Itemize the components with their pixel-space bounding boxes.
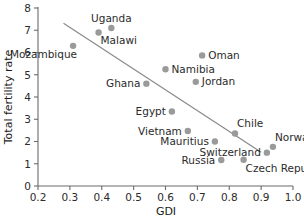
x-tick-label: 1.0 <box>285 191 302 203</box>
data-point <box>169 108 175 114</box>
point-label: Ghana <box>106 77 140 89</box>
y-tick-label: 0 <box>24 180 31 192</box>
point-label: Czech Republic <box>246 162 304 174</box>
data-point <box>193 79 199 85</box>
point-label: Mozambique <box>10 48 77 60</box>
point-label: Uganda <box>91 12 132 24</box>
data-point-labels-group: MozambiqueMalawiUgandaGhanaNamibiaEgyptV… <box>10 12 304 174</box>
x-tick-label: 0.5 <box>125 191 142 203</box>
x-tick-label: 0.2 <box>30 191 47 203</box>
x-tick-label: 0.4 <box>93 191 110 203</box>
data-point <box>162 66 168 72</box>
y-tick-label: 2 <box>24 135 31 147</box>
y-tick-label: 7 <box>24 24 31 36</box>
x-tick-label: 0.6 <box>157 191 174 203</box>
x-tick-label: 0.3 <box>62 191 79 203</box>
data-point <box>270 144 276 150</box>
y-tick-label: 5 <box>24 69 31 81</box>
plot-area: 012345678 0.20.30.40.50.60.70.80.91.0 Mo… <box>0 0 304 220</box>
data-point <box>232 130 238 136</box>
x-axis-ticks: 0.20.30.40.50.60.70.80.91.0 <box>30 186 302 203</box>
data-point <box>199 52 205 58</box>
y-tick-label: 8 <box>24 2 31 14</box>
y-axis-ticks: 012345678 <box>24 2 38 192</box>
y-tick-label: 4 <box>24 91 31 103</box>
x-axis-title: GDI <box>156 205 176 218</box>
x-tick-label: 0.7 <box>189 191 206 203</box>
point-label: Switzerland <box>200 146 261 158</box>
data-point <box>143 80 149 86</box>
data-point <box>108 25 114 31</box>
scatter-chart: 012345678 0.20.30.40.50.60.70.80.91.0 Mo… <box>0 0 304 220</box>
data-point <box>212 138 218 144</box>
y-axis-title: Total fertility rate <box>2 50 15 146</box>
point-label: Norway <box>275 131 304 143</box>
point-label: Oman <box>208 49 240 61</box>
point-label: Malawi <box>101 34 137 46</box>
point-label: Jordan <box>201 75 235 87</box>
y-tick-label: 3 <box>24 113 31 125</box>
point-label: Chile <box>237 117 263 129</box>
x-tick-label: 0.8 <box>221 191 238 203</box>
data-point <box>185 128 191 134</box>
data-point <box>264 149 270 155</box>
point-label: Namibia <box>172 63 215 75</box>
x-tick-label: 0.9 <box>253 191 270 203</box>
point-label: Egypt <box>136 105 166 117</box>
y-tick-label: 1 <box>24 158 31 170</box>
